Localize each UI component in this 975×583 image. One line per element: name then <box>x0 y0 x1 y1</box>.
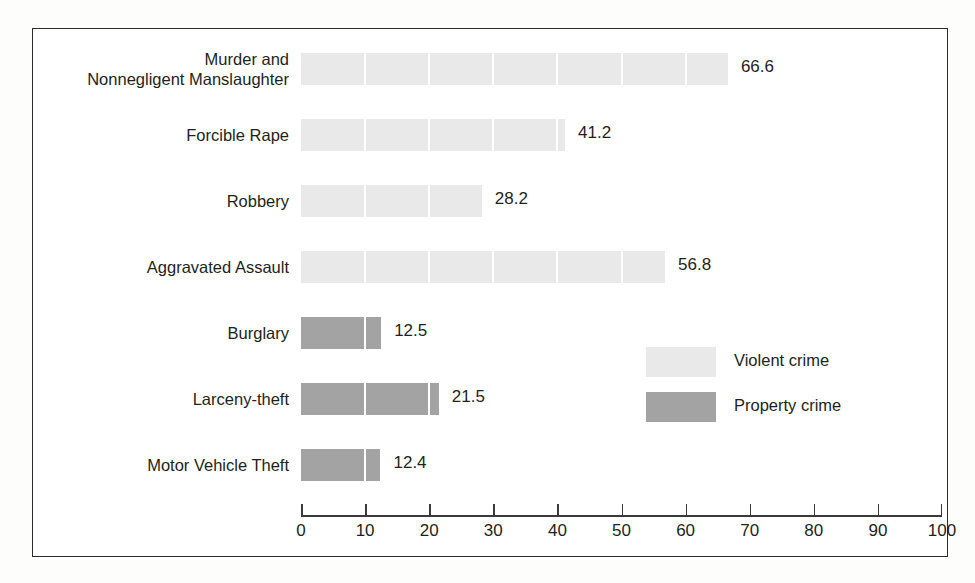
x-axis-tick-label: 70 <box>724 521 776 541</box>
bar-value-label: 12.5 <box>394 321 427 341</box>
x-axis-tick <box>941 504 943 516</box>
bar-segment-separator <box>364 383 366 415</box>
x-axis-tick <box>878 504 880 516</box>
bar-segment-separator <box>364 119 366 151</box>
category-label: Motor Vehicle Theft <box>39 455 289 475</box>
bar-segment-separator <box>492 119 494 151</box>
x-axis-tick-label: 10 <box>339 521 391 541</box>
plot-area: Murder and Nonnegligent Manslaughter66.6… <box>33 29 949 558</box>
bar-violent-crime <box>301 185 482 217</box>
bar-value-label: 66.6 <box>741 57 774 77</box>
legend-item: Violent crime <box>646 347 906 377</box>
bar-segment-separator <box>428 383 430 415</box>
x-axis-tick <box>750 504 752 516</box>
legend-swatch <box>646 392 716 422</box>
bar-value-label: 21.5 <box>452 387 485 407</box>
x-axis-tick <box>301 504 303 516</box>
category-label: Burglary <box>39 323 289 343</box>
chart-bar-row: Forcible Rape41.2 <box>33 119 949 151</box>
x-axis-tick <box>493 504 495 516</box>
x-axis-tick-label: 20 <box>403 521 455 541</box>
x-axis-tick <box>429 504 431 516</box>
chart-bar-row: Burglary12.5 <box>33 317 949 349</box>
bar-segment-separator <box>364 317 366 349</box>
x-axis-tick-label: 80 <box>788 521 840 541</box>
legend-item: Property crime <box>646 392 906 422</box>
x-axis-tick <box>557 504 559 516</box>
category-label: Aggravated Assault <box>39 257 289 277</box>
bar-segment-separator <box>621 251 623 283</box>
x-axis-tick-label: 30 <box>467 521 519 541</box>
chart-bar-row: Motor Vehicle Theft12.4 <box>33 449 949 481</box>
bar-segment-separator <box>364 53 366 85</box>
bar-segment-separator <box>685 53 687 85</box>
bar-segment-separator <box>428 119 430 151</box>
bar-segment-separator <box>621 53 623 85</box>
chart-frame: Murder and Nonnegligent Manslaughter66.6… <box>32 28 948 557</box>
category-label: Forcible Rape <box>39 125 289 145</box>
bar-violent-crime <box>301 53 728 85</box>
chart-bar-row: Robbery28.2 <box>33 185 949 217</box>
bar-value-label: 41.2 <box>578 123 611 143</box>
bar-segment-separator <box>364 251 366 283</box>
x-axis: 0102030405060708090100 <box>301 497 949 557</box>
category-label: Murder and Nonnegligent Manslaughter <box>39 49 289 89</box>
bar-segment-separator <box>492 251 494 283</box>
bar-segment-separator <box>556 119 558 151</box>
bar-property-crime <box>301 449 380 481</box>
chart-figure: Murder and Nonnegligent Manslaughter66.6… <box>0 0 975 583</box>
bar-segment-separator <box>428 251 430 283</box>
bar-value-label: 12.4 <box>393 453 426 473</box>
bar-segment-separator <box>492 53 494 85</box>
bar-value-label: 28.2 <box>495 189 528 209</box>
bar-segment-separator <box>364 185 366 217</box>
bar-segment-separator <box>428 185 430 217</box>
x-axis-tick-label: 100 <box>916 521 968 541</box>
x-axis-tick-label: 60 <box>660 521 712 541</box>
bar-violent-crime <box>301 251 665 283</box>
bar-segment-separator <box>428 53 430 85</box>
legend-label: Violent crime <box>734 351 829 370</box>
legend-label: Property crime <box>734 396 841 415</box>
x-axis-tick <box>686 504 688 516</box>
x-axis-tick <box>365 504 367 516</box>
category-label: Robbery <box>39 191 289 211</box>
bar-property-crime <box>301 383 439 415</box>
bar-violent-crime <box>301 119 565 151</box>
bar-segment-separator <box>364 449 366 481</box>
legend-swatch <box>646 347 716 377</box>
bar-segment-separator <box>556 251 558 283</box>
x-axis-tick-label: 0 <box>275 521 327 541</box>
x-axis-tick-label: 50 <box>596 521 648 541</box>
bar-segment-separator <box>556 53 558 85</box>
x-axis-tick-label: 90 <box>852 521 904 541</box>
chart-bar-row: Aggravated Assault56.8 <box>33 251 949 283</box>
category-label: Larceny-theft <box>39 389 289 409</box>
x-axis-tick-label: 40 <box>531 521 583 541</box>
chart-bar-row: Murder and Nonnegligent Manslaughter66.6 <box>33 53 949 85</box>
x-axis-tick <box>622 504 624 516</box>
x-axis-tick <box>814 504 816 516</box>
bar-property-crime <box>301 317 381 349</box>
bar-value-label: 56.8 <box>678 255 711 275</box>
